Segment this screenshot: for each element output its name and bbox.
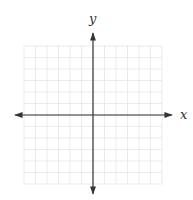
coordinate-plane: y x xyxy=(0,0,193,200)
x-axis-label: x xyxy=(180,107,188,122)
y-axis-label: y xyxy=(88,11,97,26)
